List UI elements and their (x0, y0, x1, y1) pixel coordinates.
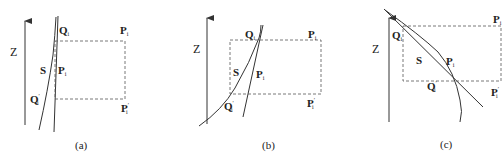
surface-tangent-diagram: Z Qi Pi S Pi Q′i P′i (a) Z Qi Pi S Pi Q′… (0, 0, 504, 161)
label-q-i: Qi (245, 28, 256, 41)
label-p-i-mid: Pi (446, 55, 455, 68)
label-p-i-mid: Pi (256, 68, 265, 81)
panel-a: Z Qi Pi S Pi Q′i P′i (a) (10, 16, 130, 152)
label-p-i-mid: Pi (58, 64, 67, 77)
caption-a: (a) (75, 139, 88, 152)
label-p-i-top: Pi (120, 24, 129, 37)
label-p-i-prime: P′i (121, 102, 130, 115)
label-p-i-top: Pi (493, 13, 502, 26)
label-s: S (416, 54, 422, 66)
label-p-i-prime: P′i (491, 86, 500, 99)
z-axis-label: Z (10, 45, 17, 59)
label-p-i-prime: P′i (307, 97, 316, 110)
label-s: S (233, 66, 239, 78)
label-s: S (40, 64, 46, 76)
projection-rectangle (230, 40, 321, 94)
label-q-i-prime: Q′i (30, 93, 41, 106)
caption-b: (b) (262, 139, 275, 152)
panel-c: Z Qi Pi S Pi Q′i P′i (c) (372, 9, 502, 151)
label-q-i-prime: Q′i (224, 100, 235, 113)
label-q-i: Qi (59, 24, 70, 37)
panel-b: Z Qi Pi S Pi Q′i P′i (b) (193, 18, 321, 152)
caption-c: (c) (440, 138, 453, 151)
label-p-i-top: Pi (308, 28, 317, 41)
label-q-i: Qi (392, 29, 403, 42)
z-axis-label: Z (193, 42, 200, 56)
projection-rectangle (55, 41, 125, 99)
label-q-i-prime: Q′i (427, 80, 438, 93)
z-axis-label: Z (372, 42, 379, 56)
